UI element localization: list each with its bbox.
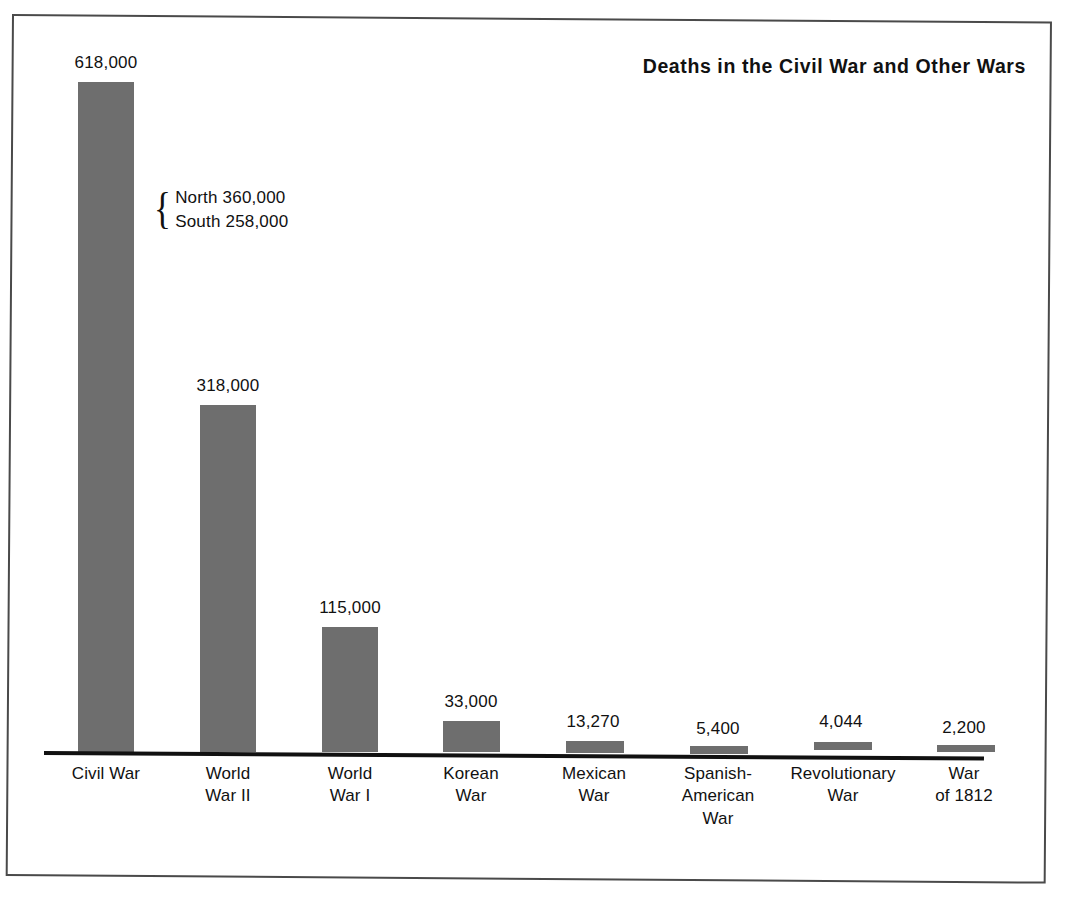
x-axis-line <box>44 751 984 760</box>
bar-war-of-1812 <box>937 745 995 752</box>
category-label: Mexican War <box>534 763 654 808</box>
category-label: Korean War <box>411 763 531 808</box>
curly-brace-icon: { <box>154 189 171 229</box>
bar-value: 618,000 <box>48 53 164 73</box>
bar-value: 13,270 <box>535 712 651 732</box>
category-label: Civil War <box>46 763 166 785</box>
civil-war-breakdown-annotation: { North 360,000 South 258,000 <box>152 186 288 234</box>
category-label: War of 1812 <box>904 763 1024 808</box>
bar-mexican-war <box>566 741 624 753</box>
bar-world-war-ii <box>200 405 256 752</box>
bar-value: 115,000 <box>292 598 408 618</box>
chart-page: Deaths in the Civil War and Other Wars 6… <box>0 0 1068 901</box>
category-label: Spanish- American War <box>658 763 778 830</box>
bar-value: 5,400 <box>660 719 776 739</box>
bar-korean-war <box>443 721 500 752</box>
bar-civil-war <box>78 82 134 752</box>
bar-value: 33,000 <box>413 692 529 712</box>
category-label: World War II <box>168 763 288 808</box>
bar-value: 4,044 <box>783 712 899 732</box>
plot-area: 618,000 Civil War 318,000 World War II 1… <box>0 0 1068 901</box>
bar-world-war-i <box>322 627 378 752</box>
bar-revolutionary-war <box>814 742 872 750</box>
annotation-line-south: South 258,000 <box>175 210 288 234</box>
category-label: Revolutionary War <box>771 763 915 808</box>
bar-value: 2,200 <box>906 718 1022 738</box>
category-label: World War I <box>290 763 410 808</box>
annotation-line-north: North 360,000 <box>175 186 288 210</box>
annotation-text: North 360,000 South 258,000 <box>175 186 288 234</box>
bar-value: 318,000 <box>170 376 286 396</box>
bar-spanish-american-war <box>690 746 748 754</box>
